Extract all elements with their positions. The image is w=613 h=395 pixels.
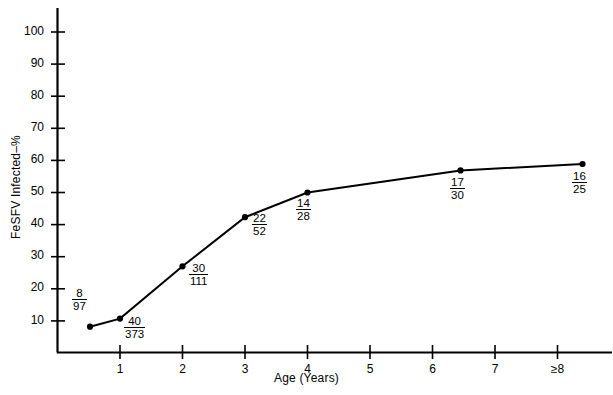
chart-figure: 100 90 80 70 60 50 40 30 20 10 1 2 3 4 5… [0,0,613,395]
data-point [457,167,463,173]
point-label-22-52: 22 52 [252,212,267,237]
fraction-numerator: 30 [189,262,208,275]
y-axis-title: FeSFV Infected–% [9,107,23,267]
y-tick-label-20: 20 [10,280,44,294]
y-tick-label-80: 80 [10,88,44,102]
point-label-8-97: 8 97 [72,287,87,312]
fraction-denominator: 111 [189,275,208,287]
data-point-markers [87,161,586,330]
point-label-14-28: 14 28 [296,197,311,222]
y-tick-label-90: 90 [10,56,44,70]
fraction-numerator: 16 [572,170,587,183]
y-tick-label-10: 10 [10,313,44,327]
point-label-40-373: 40 373 [124,315,145,340]
fraction-numerator: 40 [124,315,145,328]
fraction-denominator: 97 [72,300,87,312]
fraction-numerator: 14 [296,197,311,210]
x-axis-title: Age (Years) [0,371,613,385]
data-line [90,164,583,327]
data-point [179,263,185,269]
data-point [304,189,310,195]
point-label-16-25: 16 25 [572,170,587,195]
point-label-17-30: 17 30 [450,176,465,201]
fraction-numerator: 8 [72,287,87,300]
fraction-denominator: 25 [572,183,587,195]
fraction-denominator: 28 [296,210,311,222]
fraction-denominator: 30 [450,189,465,201]
data-point [242,214,248,220]
data-point [87,324,93,330]
point-label-30-111: 30 111 [189,262,208,287]
fraction-denominator: 52 [252,225,267,237]
fraction-numerator: 22 [252,212,267,225]
fraction-numerator: 17 [450,176,465,189]
y-tick-label-100: 100 [10,24,44,38]
fraction-denominator: 373 [124,328,145,340]
data-point [117,316,123,322]
data-point [579,161,585,167]
